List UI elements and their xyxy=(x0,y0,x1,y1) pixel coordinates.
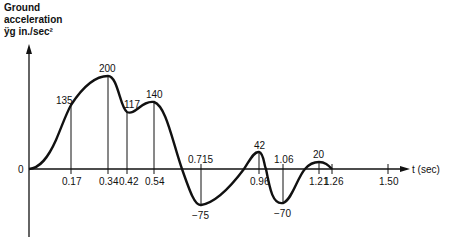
value-label-20: 20 xyxy=(313,149,325,160)
value-labels: 135 200 117 140 −75 42 −70 20 xyxy=(56,63,325,221)
value-label-neg75: −75 xyxy=(192,210,209,221)
value-label-135: 135 xyxy=(56,95,73,106)
x-tick-0-96: 0.96 xyxy=(250,176,270,187)
x-tick-1-50: 1.50 xyxy=(379,176,399,187)
x-tick-labels: 0.17 0.34 0.42 0.54 0.715 0.96 1.06 1.21… xyxy=(62,154,399,187)
value-label-42: 42 xyxy=(254,140,266,151)
value-label-200: 200 xyxy=(99,63,116,74)
x-axis-label: t (sec) xyxy=(412,164,440,175)
value-label-140: 140 xyxy=(146,89,163,100)
x-tick-1-26: 1.26 xyxy=(324,176,344,187)
x-tick-0-54: 0.54 xyxy=(145,176,165,187)
x-tick-0-34: 0.34 xyxy=(99,176,119,187)
x-tick-0-715: 0.715 xyxy=(188,154,213,165)
value-label-117: 117 xyxy=(124,99,140,110)
origin-label: 0 xyxy=(18,164,24,175)
acceleration-chart: t (sec) 0 0.17 0.34 0.42 0.54 0.715 0.96… xyxy=(0,0,450,245)
x-tick-0-17: 0.17 xyxy=(62,176,82,187)
y-axis-arrow-icon xyxy=(26,44,32,54)
x-tick-0-42: 0.42 xyxy=(119,176,139,187)
x-tick-1-06: 1.06 xyxy=(274,154,294,165)
x-axis-arrow-icon xyxy=(400,166,410,172)
value-label-neg70: −70 xyxy=(274,208,291,219)
